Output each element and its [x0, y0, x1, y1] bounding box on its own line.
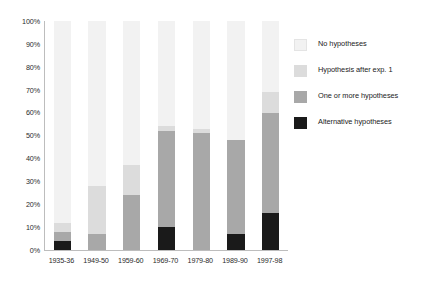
bar-segment-1959-60-one-or-more-hypotheses — [123, 195, 140, 250]
y-axis-tick-50: 50% — [6, 131, 40, 140]
x-axis-tick-1969-70: 1969-70 — [148, 256, 183, 265]
bar-segment-1935-36-hypothesis-after-exp-1 — [54, 223, 71, 232]
bar-segment-1997-98-alternative-hypotheses — [262, 213, 279, 250]
legend-swatch-alternative-hypotheses — [294, 117, 307, 129]
bar-segment-1969-70-one-or-more-hypotheses — [158, 131, 175, 227]
stacked-bar-chart: 100% 90% 80% 70% 60% 50% 40% 30% 20% 10%… — [0, 0, 431, 285]
x-axis-tick-1959-60: 1959-60 — [113, 256, 148, 265]
bar-1997-98 — [262, 21, 279, 250]
legend-item-one-or-more-hypotheses: One or more hypotheses — [294, 90, 428, 116]
x-axis-tick-1979-80: 1979-80 — [183, 256, 218, 265]
y-axis-tick-20: 20% — [6, 200, 40, 209]
bar-segment-1935-36-alternative-hypotheses — [54, 241, 71, 250]
y-axis-tick-80: 80% — [6, 63, 40, 72]
bar-1969-70 — [158, 21, 175, 250]
legend-swatch-no-hypotheses — [294, 39, 307, 51]
legend-swatch-hypothesis-after-exp-1 — [294, 65, 307, 77]
y-axis-tick-40: 40% — [6, 154, 40, 163]
bar-segment-1979-80-no-hypotheses — [193, 21, 210, 129]
bar-segment-1989-90-alternative-hypotheses — [227, 234, 244, 250]
legend-label-no-hypotheses: No hypotheses — [318, 39, 367, 48]
bar-1959-60 — [123, 21, 140, 250]
y-axis-tick-70: 70% — [6, 86, 40, 95]
bar-1935-36 — [54, 21, 71, 250]
plot-area — [44, 21, 288, 251]
x-axis-tick-1935-36: 1935-36 — [44, 256, 79, 265]
bar-segment-1949-50-one-or-more-hypotheses — [88, 234, 105, 250]
legend-item-hypothesis-after-exp-1: Hypothesis after exp. 1 — [294, 64, 428, 90]
legend-swatch-one-or-more-hypotheses — [294, 91, 307, 103]
bar-segment-1935-36-one-or-more-hypotheses — [54, 232, 71, 241]
legend-label-one-or-more-hypotheses: One or more hypotheses — [318, 91, 398, 100]
bar-segment-1989-90-no-hypotheses — [227, 21, 244, 140]
bar-segment-1949-50-no-hypotheses — [88, 21, 105, 186]
y-axis-tick-90: 90% — [6, 40, 40, 49]
bar-segment-1997-98-no-hypotheses — [262, 21, 279, 92]
bar-segment-1979-80-hypothesis-after-exp-1 — [193, 129, 210, 134]
bar-segment-1959-60-no-hypotheses — [123, 21, 140, 165]
bar-segment-1969-70-alternative-hypotheses — [158, 227, 175, 250]
legend-item-alternative-hypotheses: Alternative hypotheses — [294, 116, 428, 142]
bar-segment-1969-70-hypothesis-after-exp-1 — [158, 126, 175, 131]
chart-legend: No hypotheses Hypothesis after exp. 1 On… — [294, 38, 428, 142]
bar-1979-80 — [193, 21, 210, 250]
y-axis-tick-30: 30% — [6, 177, 40, 186]
bar-segment-1949-50-hypothesis-after-exp-1 — [88, 186, 105, 234]
bar-segment-1997-98-hypothesis-after-exp-1 — [262, 92, 279, 113]
y-axis-tick-10: 10% — [6, 223, 40, 232]
x-axis-tick-1997-98: 1997-98 — [252, 256, 287, 265]
bar-1989-90 — [227, 21, 244, 250]
bar-segment-1959-60-hypothesis-after-exp-1 — [123, 165, 140, 195]
legend-label-alternative-hypotheses: Alternative hypotheses — [318, 117, 392, 126]
bar-segment-1979-80-one-or-more-hypotheses — [193, 133, 210, 250]
y-axis-tick-0: 0% — [6, 246, 40, 255]
legend-item-no-hypotheses: No hypotheses — [294, 38, 428, 64]
x-axis-tick-1949-50: 1949-50 — [79, 256, 114, 265]
legend-label-hypothesis-after-exp-1: Hypothesis after exp. 1 — [318, 65, 392, 74]
y-axis-tick-100: 100% — [6, 17, 40, 26]
bar-segment-1935-36-no-hypotheses — [54, 21, 71, 223]
bar-1949-50 — [88, 21, 105, 250]
y-axis-tick-60: 60% — [6, 108, 40, 117]
x-axis-tick-1989-90: 1989-90 — [218, 256, 253, 265]
bar-segment-1989-90-one-or-more-hypotheses — [227, 140, 244, 234]
bar-segment-1969-70-no-hypotheses — [158, 21, 175, 126]
bar-segment-1997-98-one-or-more-hypotheses — [262, 113, 279, 214]
